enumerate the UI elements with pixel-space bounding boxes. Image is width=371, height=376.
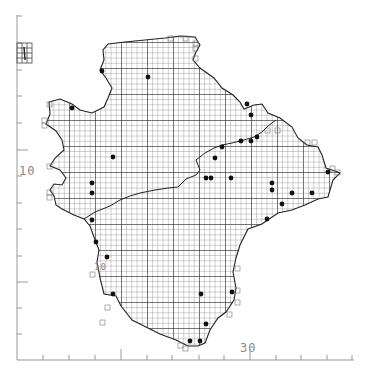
bottom-axis (17, 349, 354, 360)
left-axis-label: 10 (19, 164, 35, 178)
left-axis (17, 15, 28, 360)
distribution-map (0, 0, 371, 376)
inset-box (17, 43, 32, 63)
grid (0, 0, 371, 376)
inset-label: 10 (94, 262, 107, 272)
bottom-axis-label: 30 (240, 341, 256, 355)
